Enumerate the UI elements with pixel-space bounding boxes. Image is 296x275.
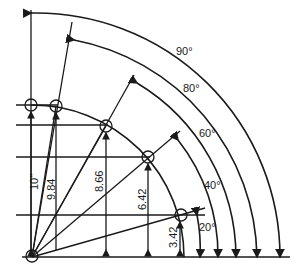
height-label-9-84: 9.84 [45,179,57,200]
angle-arc-60 [137,83,236,257]
height-label-10: 10" [28,174,40,190]
height-label-6-42: 6.42 [136,189,148,210]
height-label-8-66: 8.66 [93,171,105,192]
height-label-3-42: 3.42 [167,227,179,248]
angle-label-60: 60° [199,127,216,139]
angle-arc-90 [31,13,280,257]
angle-label-90: 90° [176,45,193,57]
angle-label-20: 20° [199,221,216,233]
angle-arc-40 [178,140,218,257]
angle-arc-80 [74,40,257,257]
angle-label-40: 40° [204,179,221,191]
diagram-canvas: 90° 80° 60° 40° 20° 10" 9.84 8.66 6.42 3… [0,0,296,275]
angle-label-80: 80° [183,82,200,94]
angle-height-diagram: 90° 80° 60° 40° 20° 10" 9.84 8.66 6.42 3… [0,0,296,275]
